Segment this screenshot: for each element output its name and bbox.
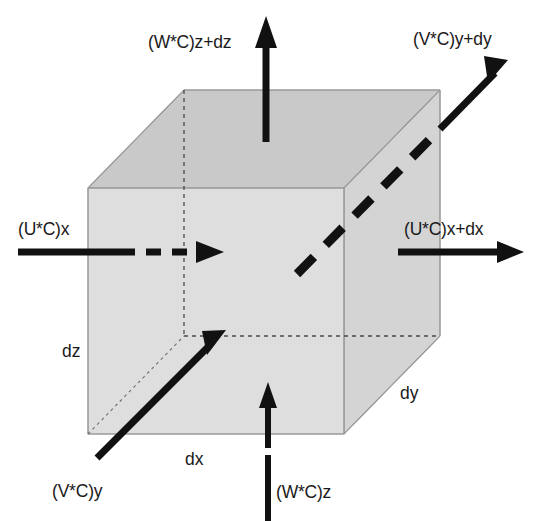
label-dim-dx: dx (185, 449, 204, 469)
label-dim-dz: dz (62, 341, 80, 361)
label-top-flux: (W*C)z+dz (148, 32, 231, 52)
label-dim-dy: dy (400, 383, 419, 403)
cube-front-face (88, 188, 344, 434)
label-bottom-left-flux: (V*C)y (52, 481, 103, 501)
label-bottom-flux: (W*C)z (276, 482, 331, 502)
arrow-w-c-z-plus-dz-head (255, 16, 277, 48)
arrow-v-c-y-plus-dy-solid-shaft (440, 73, 495, 129)
arrow-v-c-y-plus-dy-head (484, 56, 508, 83)
figure-root: (W*C)z+dz (V*C)y+dy (U*C)x (U*C)x+dx (V*… (0, 0, 533, 521)
label-top-right-flux: (V*C)y+dy (413, 29, 492, 49)
arrow-w-c-z (259, 382, 277, 521)
arrow-u-c-x-plus-dx-head (497, 241, 524, 263)
flux-cube-diagram: (W*C)z+dz (V*C)y+dy (U*C)x (U*C)x+dx (V*… (0, 0, 533, 521)
label-left-flux: (U*C)x (18, 219, 70, 239)
label-right-flux: (U*C)x+dx (404, 219, 484, 239)
